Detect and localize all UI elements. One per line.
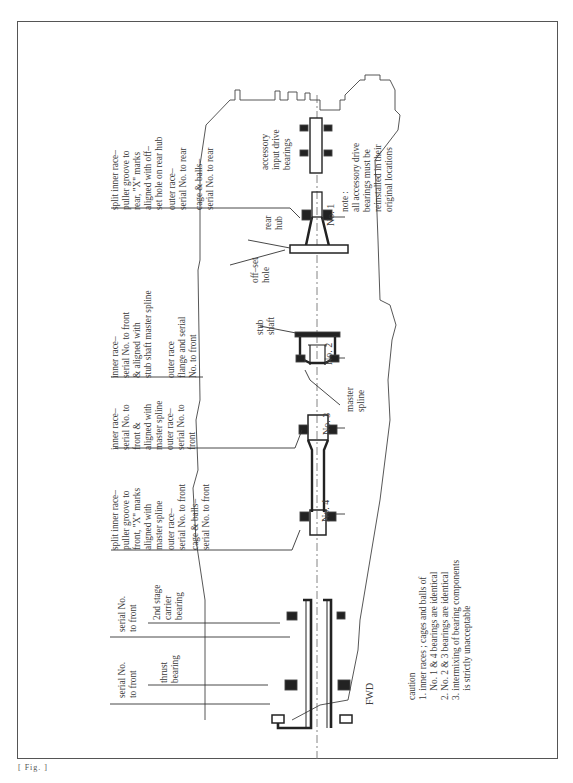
master-spline-label: masterspline [323, 387, 378, 412]
accessory-note: note :all accessory drivebearings must b… [318, 143, 406, 212]
figure-caption: [ Fig. ] [18, 763, 48, 772]
thrust-bearing-label: thrustbearing [137, 655, 192, 683]
bearing-no3-label: No. 3 [321, 413, 332, 435]
bearing-no2-label: No. 2 [323, 343, 334, 365]
drivetrain-bearing-diagram [0, 0, 573, 783]
bearing-no1-label: No. 1 [325, 204, 336, 226]
rear-hub-label: rearhub [241, 216, 296, 230]
rear-cage-balls-label: cage & balls–serial No. to rear [172, 148, 227, 210]
offset-hole-label: off–sethole [228, 257, 283, 283]
accessory-bearings-label: accessoryinput drivebearings [238, 129, 304, 170]
fwd-label: FWD [364, 683, 375, 705]
no2-outer-race-label: outer raceflange and serialNo. to front [144, 317, 210, 378]
stub-shaft-label: stubshaft [233, 317, 288, 335]
no3-outer-race-label: outer race–serial No. tofront [143, 404, 209, 450]
no4-cage-balls-label: cage & balls–serial No. to front [168, 484, 223, 550]
caution-note: caution1. inner races ; cages and balls … [385, 560, 484, 700]
carrier-bearing-label: 2nd stagecarrierbearing [130, 585, 196, 620]
bearing-no4-label: No. 4 [320, 500, 331, 522]
